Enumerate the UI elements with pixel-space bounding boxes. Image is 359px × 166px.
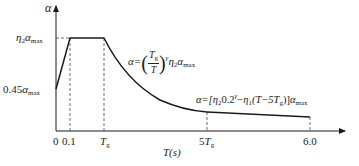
decay-equation: α=(TgT)γη2αmax [128, 50, 195, 75]
y-axis-label: α [45, 2, 51, 14]
y-tick-start-label: 0.45αmax [3, 84, 40, 97]
x-tick-5tg: 5Tg [199, 136, 214, 149]
x-tick-0: 0 [53, 136, 59, 147]
x-tick-0-1: 0.1 [62, 136, 76, 147]
response-spectrum-diagram: α η2αmax 0.45αmax 0 0.1 Tg 5Tg 6.0 T(s) … [0, 0, 359, 166]
x-tick-tg: Tg [100, 136, 110, 149]
x-tick-6: 6.0 [303, 136, 317, 147]
linear-equation: α=[η20.2γ−η1(T−5Tg)]αmax [196, 93, 308, 107]
y-tick-plateau-label: η2αmax [16, 32, 43, 45]
x-axis-label: T(s) [163, 147, 181, 158]
